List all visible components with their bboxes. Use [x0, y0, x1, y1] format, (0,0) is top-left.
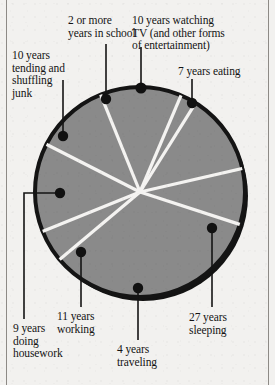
marker-dot-eating [187, 98, 197, 108]
callout-label-junk: 10 years tending and shuffling junk [12, 49, 65, 99]
callout-label-housework: 9 years doing housework [13, 322, 63, 360]
callout-label-sleeping: 27 years sleeping [189, 311, 227, 336]
figure-page: 2 or more years in school 10 years watch… [0, 0, 275, 385]
marker-dot-junk [58, 131, 68, 141]
marker-dot-traveling [133, 283, 143, 293]
callout-label-eating: 7 years eating [178, 65, 240, 78]
callout-label-tv: 10 years watching TV (and other forms of… [132, 14, 225, 52]
callout-label-working: 11 years working [57, 310, 95, 335]
callout-label-traveling: 4 years traveling [117, 343, 157, 368]
marker-dot-housework [55, 188, 65, 198]
marker-dot-school [101, 94, 111, 104]
marker-dot-tv [135, 82, 146, 93]
marker-dot-sleeping [207, 223, 217, 233]
callout-label-school: 2 or more years in school [68, 14, 135, 39]
marker-dot-working [76, 247, 86, 257]
